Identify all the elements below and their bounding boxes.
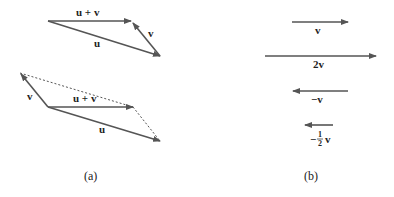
label-v: v	[315, 24, 321, 36]
label-v: v	[148, 27, 154, 39]
label-u-plus-v: u + v	[76, 6, 100, 18]
caption-b: (b)	[304, 169, 318, 183]
svg-text:v: v	[325, 133, 331, 145]
label-neg-v: −v	[311, 93, 323, 105]
svg-text:1: 1	[318, 130, 322, 139]
arrow-u	[48, 21, 160, 56]
panel-b-scalar-multiples: v 2v −v − 1 2 v	[265, 22, 376, 148]
label-v: v	[27, 90, 33, 102]
svg-text:−: −	[310, 133, 316, 145]
label-neg-half-v: − 1 2 v	[310, 130, 331, 148]
caption-a: (a)	[84, 169, 97, 183]
arrow-v	[21, 74, 48, 107]
dashed-edge-right	[133, 107, 160, 141]
label-2v: 2v	[313, 58, 325, 70]
label-u: u	[94, 37, 100, 49]
svg-text:2: 2	[318, 139, 322, 148]
panel-a-triangle: u + v v u	[48, 6, 160, 56]
vector-diagram: u + v v u v u + v u (a) v 2v −v − 1 2 v …	[0, 0, 394, 197]
label-u-plus-v: u + v	[73, 92, 97, 104]
label-u: u	[99, 123, 105, 135]
panel-a-parallelogram: v u + v u	[20, 73, 160, 141]
